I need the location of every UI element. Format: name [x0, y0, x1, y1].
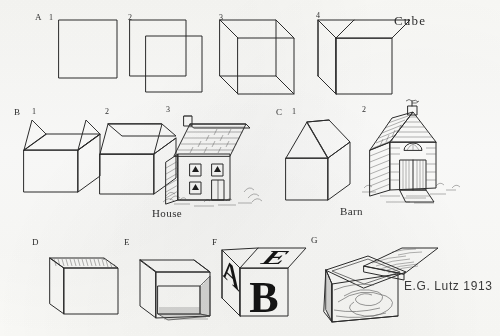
figure-a2-offset-squares	[128, 18, 206, 96]
row-letter-f: F	[212, 238, 218, 247]
figure-a1-square	[57, 18, 121, 84]
artist-signature: E.G. Lutz 1913	[404, 279, 492, 293]
house-label: House	[152, 208, 182, 219]
block-letter-left: A	[223, 249, 240, 299]
cupola	[408, 106, 417, 115]
roof-shingles	[178, 127, 245, 153]
row-letter-d: D	[32, 238, 39, 247]
figure-a3-wireframe-cube	[218, 18, 304, 98]
barn-label: Barn	[340, 206, 363, 217]
barn-gable-siding	[394, 117, 432, 137]
figure-e-box-interior	[136, 246, 220, 326]
box-front-woodgrain	[334, 284, 393, 317]
house-window-lower	[190, 182, 201, 194]
cube-label: Cube	[394, 14, 426, 27]
figure-c2-finished-barn	[356, 106, 464, 210]
step-num-a1: 1	[49, 14, 53, 22]
figure-b3-finished-house	[160, 112, 268, 210]
figure-c1-barn-frame	[276, 114, 368, 206]
barn-side-siding	[370, 148, 390, 192]
row-letter-e: E	[124, 238, 130, 247]
row-letter-a: A	[35, 13, 42, 22]
figure-f-alphabet-block: B A E	[218, 244, 302, 326]
interior-right-hatch	[201, 277, 209, 316]
figure-d-open-box	[46, 246, 134, 324]
drawing-plate: A 1 2 3 4	[0, 0, 500, 336]
block-letter-front: B	[249, 273, 278, 322]
box-front	[332, 274, 398, 322]
figure-a4-finished-cube	[316, 16, 402, 98]
barn-ground	[362, 183, 460, 203]
house-windows-upper	[190, 164, 223, 176]
